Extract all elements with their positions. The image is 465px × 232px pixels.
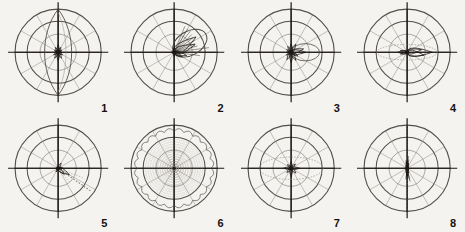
polar-plot-3 xyxy=(233,0,349,116)
panel-label-1: 1 xyxy=(101,103,107,114)
polar-plot-grid: 12345678 xyxy=(0,0,465,231)
panel-label-8: 8 xyxy=(450,218,456,229)
polar-plot-8 xyxy=(349,116,465,232)
panel-label-4: 4 xyxy=(450,103,456,114)
polar-panel-3: 3 xyxy=(233,0,349,116)
polar-panel-8: 8 xyxy=(349,116,465,232)
polar-panel-5: 5 xyxy=(0,116,116,232)
polar-panel-2: 2 xyxy=(116,0,232,116)
polar-plot-2 xyxy=(116,0,232,116)
polar-panel-1: 1 xyxy=(0,0,116,116)
polar-plot-7 xyxy=(233,116,349,232)
polar-plot-6 xyxy=(116,116,232,232)
polar-panel-6: 6 xyxy=(116,116,232,232)
polar-plot-1 xyxy=(0,0,116,116)
panel-label-7: 7 xyxy=(334,218,340,229)
polar-plot-4 xyxy=(349,0,465,116)
panel-label-3: 3 xyxy=(334,103,340,114)
polar-plot-5 xyxy=(0,116,116,232)
panel-label-5: 5 xyxy=(101,218,107,229)
panel-label-2: 2 xyxy=(217,103,223,114)
polar-panel-4: 4 xyxy=(349,0,465,116)
panel-label-6: 6 xyxy=(217,218,223,229)
polar-panel-7: 7 xyxy=(233,116,349,232)
